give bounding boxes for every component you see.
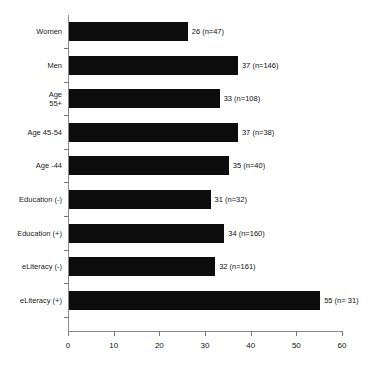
bar-value-label: 31 (n=32) <box>215 195 247 204</box>
y-axis-tick <box>64 216 69 217</box>
y-axis-tick <box>64 283 69 284</box>
y-axis-tick <box>64 149 69 150</box>
bar-value-label: 32 (n=161) <box>219 262 256 271</box>
y-axis-tick <box>64 317 69 318</box>
x-axis-tick-label: 50 <box>292 341 301 351</box>
bar-value-label: 37 (n=146) <box>242 61 279 70</box>
bar-value-label: 37 (n=38) <box>242 128 274 137</box>
category-label: Education (+) <box>0 229 62 238</box>
bar <box>69 22 188 41</box>
x-axis-tick-label: 0 <box>66 341 70 351</box>
bar <box>69 56 238 75</box>
y-axis-tick <box>64 115 69 116</box>
bar <box>69 156 229 175</box>
category-label: Age -44 <box>0 161 62 170</box>
bar <box>69 123 238 142</box>
bar-value-label: 26 (n=47) <box>192 27 224 36</box>
bar-value-label: 34 (n=160) <box>228 229 265 238</box>
category-label: Age 45-54 <box>0 128 62 137</box>
bar <box>69 224 224 243</box>
x-axis-tick <box>68 331 69 336</box>
category-label: Men <box>0 61 62 70</box>
y-axis-tick <box>64 48 69 49</box>
category-label: Women <box>0 27 62 36</box>
y-axis-tick <box>64 250 69 251</box>
x-axis-tick <box>296 331 297 336</box>
category-label: eLiteracy (+) <box>0 296 62 305</box>
bar <box>69 89 220 108</box>
x-axis-tick <box>251 331 252 336</box>
bar-value-label: 33 (n=108) <box>224 94 261 103</box>
bar-value-label: 35 (n=40) <box>233 161 265 170</box>
bar <box>69 190 211 209</box>
x-axis-tick-label: 60 <box>338 341 347 351</box>
bar-chart: 0102030405060 Women26 (n=47)Men37 (n=146… <box>0 0 376 372</box>
x-axis-tick <box>159 331 160 336</box>
x-axis-tick <box>114 331 115 336</box>
y-axis-tick <box>64 182 69 183</box>
x-axis-tick-label: 30 <box>201 341 210 351</box>
bar <box>69 291 320 310</box>
category-label: Education (-) <box>0 195 62 204</box>
x-axis-tick-label: 40 <box>246 341 255 351</box>
y-axis-tick <box>64 82 69 83</box>
x-axis-tick <box>342 331 343 336</box>
x-axis-tick-label: 10 <box>109 341 118 351</box>
bar-value-label: 55 (n= 31) <box>324 296 358 305</box>
x-axis-tick <box>205 331 206 336</box>
category-label: eLiteracy (-) <box>0 262 62 271</box>
category-label: Age 55+ <box>0 90 62 108</box>
x-axis-tick-label: 20 <box>155 341 164 351</box>
bar <box>69 257 215 276</box>
